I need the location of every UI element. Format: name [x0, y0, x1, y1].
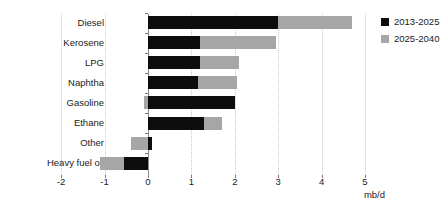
category-axis-labels: DieselKeroseneLPGNaphthaGasolineEthaneOt…	[0, 0, 104, 206]
category-label: Heavy fuel oil	[47, 158, 104, 168]
gridline	[105, 14, 106, 175]
x-tick-label: 5	[352, 177, 378, 187]
gridline	[278, 14, 279, 175]
bar-segment	[204, 117, 221, 130]
gridline	[365, 14, 366, 175]
legend-label: 2025-2040	[394, 34, 439, 44]
x-axis-unit-label: mb/d	[364, 190, 385, 200]
y-tick-mark	[145, 93, 148, 94]
bar-segment	[100, 157, 124, 170]
bar-segment	[148, 56, 200, 69]
y-tick-mark	[145, 133, 148, 134]
x-tick-label: 0	[135, 177, 161, 187]
category-label: Ethane	[74, 118, 104, 128]
bar-segment	[131, 137, 148, 150]
bar-segment	[148, 137, 152, 150]
y-tick-mark	[145, 33, 148, 34]
x-tick-label: 1	[178, 177, 204, 187]
y-tick-mark	[145, 113, 148, 114]
category-label: Naphtha	[68, 78, 104, 88]
legend-label: 2013-2025	[394, 17, 439, 27]
y-tick-mark	[145, 53, 148, 54]
bar-segment	[148, 36, 200, 49]
plot-area: DieselKeroseneLPGNaphthaGasolineEthaneOt…	[0, 0, 447, 206]
x-tick-label: 4	[309, 177, 335, 187]
legend-item[interactable]: 2025-2040	[381, 30, 447, 47]
gridline	[322, 14, 323, 175]
bar-segment	[200, 56, 239, 69]
category-label: Gasoline	[67, 98, 105, 108]
y-tick-mark	[145, 73, 148, 74]
x-tick-label: -2	[48, 177, 74, 187]
bar-segment	[124, 157, 148, 170]
bar-segment	[278, 16, 352, 29]
y-tick-mark	[145, 13, 148, 14]
legend-swatch-icon	[381, 35, 389, 43]
bar-segment	[148, 117, 204, 130]
category-label: LPG	[85, 58, 104, 68]
bar-segment	[198, 76, 237, 89]
x-tick-label: 3	[265, 177, 291, 187]
bar-segment	[144, 96, 148, 109]
bar-segment	[148, 96, 235, 109]
bar-segment	[148, 76, 198, 89]
bar-segment	[148, 16, 278, 29]
category-label: Kerosene	[63, 38, 104, 48]
chart-legend: 2013-20252025-2040	[381, 13, 447, 47]
x-tick-label: -1	[92, 177, 118, 187]
y-tick-mark	[145, 153, 148, 154]
x-tick-label: 2	[222, 177, 248, 187]
chart-figure: DieselKeroseneLPGNaphthaGasolineEthaneOt…	[0, 0, 447, 206]
category-label: Diesel	[78, 18, 104, 28]
category-label: Other	[80, 138, 104, 148]
legend-item[interactable]: 2013-2025	[381, 13, 447, 30]
bar-segment	[200, 36, 276, 49]
legend-swatch-icon	[381, 18, 389, 26]
